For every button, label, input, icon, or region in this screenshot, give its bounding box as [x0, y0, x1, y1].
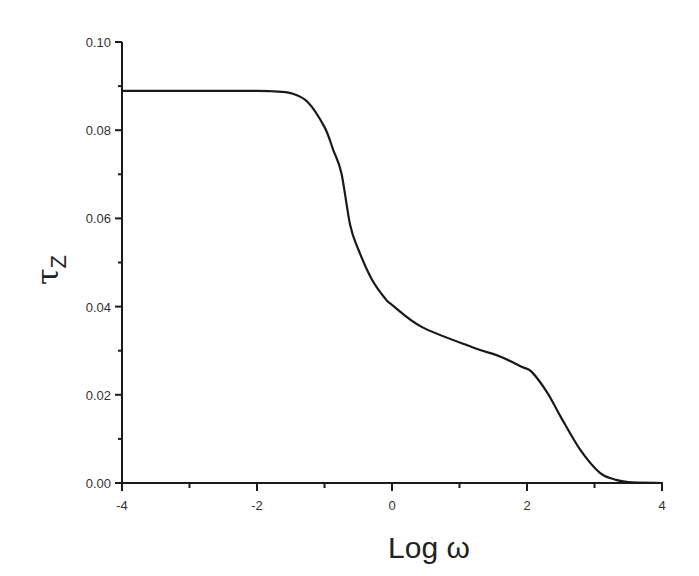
x-ticks: -4-2024	[116, 483, 665, 513]
x-tick-label: 0	[388, 498, 395, 513]
x-axis-title: Log ω	[388, 531, 470, 564]
y-axis-title: τZ	[30, 255, 71, 285]
line-chart: 0.000.020.040.060.080.10 -4-2024 Log ω τ…	[0, 0, 699, 576]
y-axis-title-subscript: Z	[46, 255, 71, 268]
data-series-line	[122, 91, 662, 483]
y-tick-label: 0.06	[86, 211, 111, 226]
y-ticks: 0.000.020.040.060.080.10	[86, 35, 122, 491]
axes	[121, 42, 662, 484]
x-tick-label: -2	[251, 498, 263, 513]
y-tick-label: 0.02	[86, 388, 111, 403]
x-tick-label: -4	[116, 498, 128, 513]
y-tick-label: 0.10	[86, 35, 111, 50]
y-tick-label: 0.04	[86, 300, 111, 315]
x-tick-label: 2	[523, 498, 530, 513]
y-tick-label: 0.08	[86, 123, 111, 138]
x-tick-label: 4	[658, 498, 665, 513]
y-axis-title-main: τ	[30, 268, 65, 285]
y-tick-label: 0.00	[86, 476, 111, 491]
